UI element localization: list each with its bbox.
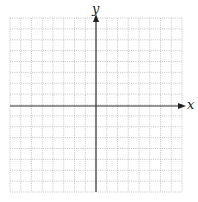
coordinate-plane — [0, 0, 198, 202]
x-axis — [10, 103, 186, 109]
x-axis-label: x — [187, 97, 194, 112]
y-axis — [93, 14, 99, 192]
y-axis-label: y — [92, 1, 99, 16]
